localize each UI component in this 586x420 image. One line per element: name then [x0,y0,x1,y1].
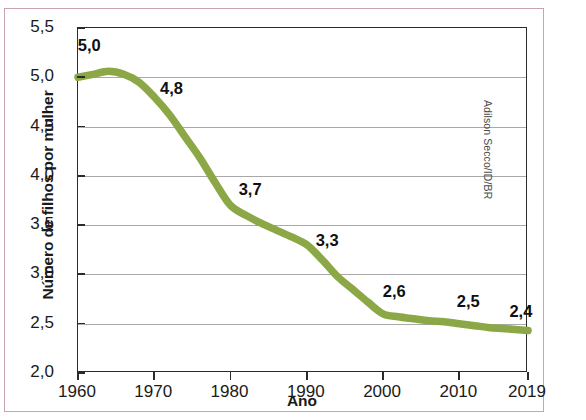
fertility-rate-chart-figure: Número de filhos por mulher Ano 5,55,04,… [0,0,586,420]
y-tick-mark [77,175,85,177]
x-tick-mark [527,372,529,380]
data-point-label: 2,6 [383,282,406,301]
data-point-label: 4,8 [160,79,183,98]
fertility-line-series [78,28,528,373]
y-tick-label: 3,0 [0,263,54,283]
y-tick-mark [77,323,85,325]
y-tick-label: 5,0 [0,66,54,86]
x-tick-label: 1980 [190,382,270,402]
data-point-label: 2,5 [457,292,480,311]
y-tick-label: 5,5 [0,17,54,37]
top-cropped-text [0,0,586,7]
x-tick-mark [230,372,232,380]
x-tick-label: 2019 [487,382,567,402]
data-point-label: 3,7 [239,179,262,198]
x-tick-label: 1960 [37,382,117,402]
x-tick-label: 2000 [342,382,422,402]
data-point-label: 2,4 [509,301,532,320]
y-tick-label: 3,5 [0,214,54,234]
y-tick-mark [77,126,85,128]
data-point-label: 3,3 [316,230,339,249]
y-tick-label: 2,0 [0,362,54,382]
y-tick-mark [77,273,85,275]
plot-area [77,27,527,372]
x-tick-mark [382,372,384,380]
y-tick-mark [77,76,85,78]
x-tick-mark [458,372,460,380]
data-point-label: 5,0 [78,35,101,54]
y-tick-mark [77,224,85,226]
x-tick-label: 1970 [113,382,193,402]
x-tick-label: 1990 [266,382,346,402]
y-tick-label: 4,0 [0,165,54,185]
y-tick-label: 2,5 [0,313,54,333]
x-tick-mark [306,372,308,380]
x-tick-mark [77,372,79,380]
y-tick-mark [77,27,85,29]
x-tick-mark [153,372,155,380]
y-tick-label: 4,5 [0,116,54,136]
image-credit: Adilson Secco/ID/BR [482,100,494,300]
